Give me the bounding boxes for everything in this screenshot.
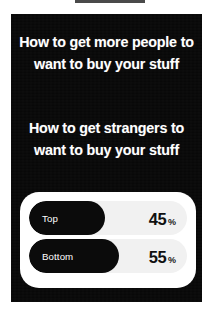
cropped-top-artifact-bar xyxy=(75,0,145,3)
poll-option-label-top: Top xyxy=(42,201,58,235)
poll-option-label-bottom: Bottom xyxy=(42,239,73,273)
poll-percent-bottom: 55 % xyxy=(149,239,176,273)
poll-percent-value-bottom: 55 xyxy=(149,248,167,267)
poll-fill-top xyxy=(29,201,105,235)
poll-option-top[interactable]: Top 45 % xyxy=(29,201,187,235)
poll-percent-top: 45 % xyxy=(149,201,176,235)
poll-percent-sign-bottom: % xyxy=(168,255,176,265)
poll-option-bottom[interactable]: Bottom 55 % xyxy=(29,239,187,273)
poll-percent-sign-top: % xyxy=(168,217,176,227)
headline-secondary: How to get strangers to want to buy your… xyxy=(19,118,194,161)
poll-card: Top 45 % Bottom 55 % xyxy=(20,192,196,288)
story-slide-panel: How to get more people to want to buy yo… xyxy=(11,14,202,302)
headline-primary: How to get more people to want to buy yo… xyxy=(19,32,194,75)
poll-percent-value-top: 45 xyxy=(149,210,167,229)
